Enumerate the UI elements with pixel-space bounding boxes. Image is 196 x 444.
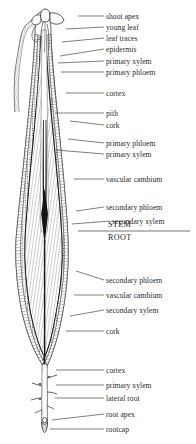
label-root-apex: root apex [106,411,135,419]
label-young-leaf: young leaf [106,24,139,32]
label-cortex-1: cortex [106,90,125,98]
label-secondary-xylem-2: secondary xylem [106,307,158,315]
lateral-root-right-3 [47,406,54,409]
plant-illustration [0,0,196,444]
label-primary-xylem-2: primary xylem [106,151,152,159]
label-vascular-cambium-1: vascular cambium [106,176,162,184]
lateral-root-node-3 [39,398,42,400]
label-cork-2: cork [106,328,120,336]
plant-body [14,9,68,433]
leader-line-secondary-phloem-1 [76,207,104,211]
label-lateral-root: lateral root [106,395,140,403]
label-secondary-phloem-1: secondary phloem [106,204,162,212]
label-primary-phloem-2: primary phloem [106,140,155,148]
label-vascular-cambium-2: vascular cambium [106,292,162,300]
label-primary-phloem-1: primary phloem [106,69,155,77]
lateral-root-node-2 [47,376,50,378]
leader-line-epidermis [60,49,104,56]
label-primary-xylem-3: primary xylem [106,382,152,390]
label-shoot-apex: shoot apex [106,13,139,21]
leader-line-primary-phloem-2 [68,139,104,143]
lateral-root-node-1 [38,383,41,385]
label-leaf-traces: leaf traces [106,35,138,43]
leader-line-primary-xylem-1 [58,61,104,63]
leader-line-secondary-phloem-2 [76,271,104,280]
leader-line-secondary-xylem-2 [70,310,104,316]
plant-anatomy-diagram: shoot apexyoung leafleaf tracesepidermis… [0,0,196,444]
leader-line-young-leaf [66,27,104,29]
root-apex-meristem [43,417,47,422]
label-secondary-phloem-2: secondary phloem [106,277,162,285]
lateral-root-right-2 [47,392,57,394]
lateral-root-left-3 [35,410,42,413]
leader-line-cork-1 [70,121,104,125]
label-pith: pith [106,110,118,118]
label-rootcap: rootcap [106,426,129,434]
label-cork-1: cork [106,122,120,130]
label-primary-xylem-1: primary xylem [106,58,152,66]
divider-label-root: ROOT [108,234,132,242]
young-leaf-right [50,13,64,24]
divider-label-stem: STEM [108,221,131,229]
label-epidermis: epidermis [106,46,136,54]
label-cortex-2: cortex [106,367,125,375]
shoot-apex-dome [41,9,51,22]
leader-line-secondary-xylem-1 [72,221,110,224]
leader-line-leaf-traces [62,38,104,42]
leader-line-root-apex [52,414,104,420]
leader-line-primary-xylem-2 [56,150,104,154]
